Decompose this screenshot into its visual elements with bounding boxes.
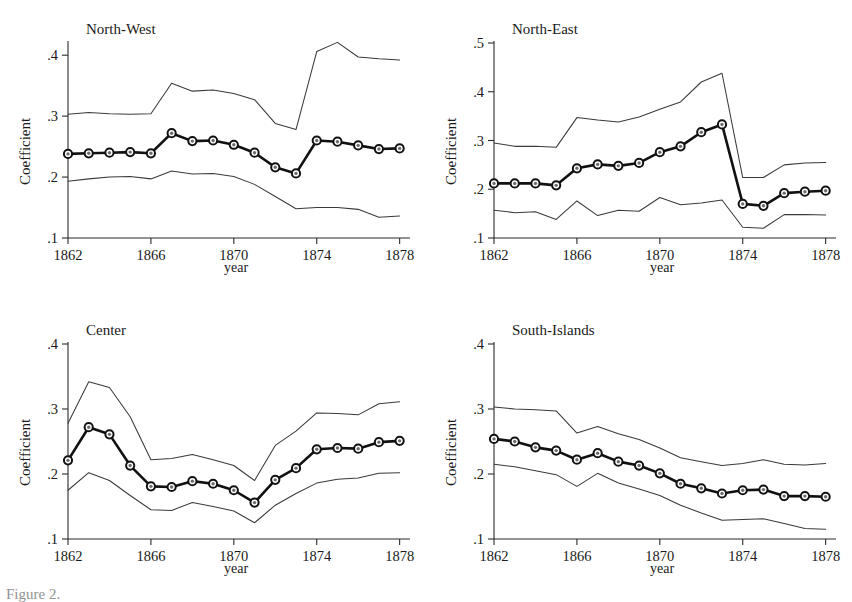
x-tick-label: 1878 xyxy=(385,247,414,263)
data-point-center xyxy=(356,447,359,450)
y-tick-label: .4 xyxy=(47,47,59,63)
data-point-center xyxy=(679,482,682,485)
y-tick-label: .4 xyxy=(473,336,485,352)
data-point-center xyxy=(741,202,744,205)
data-point-center xyxy=(274,478,277,481)
x-tick-label: 1862 xyxy=(54,548,83,564)
confidence-interval-line xyxy=(494,73,826,177)
data-point-center xyxy=(513,182,516,185)
y-axis-label: Coefficient xyxy=(17,117,33,185)
data-point-center xyxy=(66,459,69,462)
x-tick-label: 1878 xyxy=(811,247,840,263)
confidence-interval-line xyxy=(68,42,400,129)
chart-north-west: North-West Coefficient year .1.2.3.41862… xyxy=(0,0,426,301)
panel-north-east: North-East Coefficient year .1.2.3.4.518… xyxy=(426,0,852,301)
y-tick-label: .3 xyxy=(47,401,58,417)
data-point-center xyxy=(554,449,557,452)
data-point-center xyxy=(108,151,111,154)
data-point-center xyxy=(66,152,69,155)
data-point-center xyxy=(128,150,131,153)
x-tick-label: 1870 xyxy=(219,247,248,263)
data-point-center xyxy=(741,489,744,492)
coefficient-line xyxy=(494,124,826,205)
data-point-center xyxy=(658,151,661,154)
data-point-center xyxy=(658,472,661,475)
panel-title: North-East xyxy=(512,21,579,37)
x-tick-label: 1866 xyxy=(136,247,165,263)
data-point-center xyxy=(211,482,214,485)
data-point-center xyxy=(377,440,380,443)
caption-text: Figure 2. xyxy=(6,586,852,602)
data-point-center xyxy=(398,439,401,442)
data-point-center xyxy=(253,501,256,504)
data-point-center xyxy=(720,492,723,495)
y-tick-label: .3 xyxy=(473,401,484,417)
data-point-center xyxy=(108,433,111,436)
data-point-center xyxy=(782,494,785,497)
x-tick-label: 1862 xyxy=(54,247,83,263)
data-point-center xyxy=(824,495,827,498)
data-point-center xyxy=(274,166,277,169)
data-point-center xyxy=(253,151,256,154)
data-point-center xyxy=(596,452,599,455)
data-point-center xyxy=(356,144,359,147)
confidence-interval-line xyxy=(494,198,826,229)
x-tick-label: 1870 xyxy=(645,247,674,263)
y-tick-label: .2 xyxy=(473,181,484,197)
x-tick-label: 1866 xyxy=(562,548,591,564)
data-point-center xyxy=(294,466,297,469)
confidence-interval-line xyxy=(68,171,400,217)
data-point-center xyxy=(679,145,682,148)
x-tick-label: 1874 xyxy=(302,548,332,564)
y-tick-label: .1 xyxy=(47,531,58,547)
data-point-center xyxy=(315,448,318,451)
y-tick-label: .2 xyxy=(47,466,58,482)
plot-area: .1.2.3.418621866187018741878 xyxy=(473,336,840,564)
data-point-center xyxy=(617,164,620,167)
data-point-center xyxy=(87,152,90,155)
x-tick-label: 1866 xyxy=(136,548,165,564)
data-point-center xyxy=(170,131,173,134)
data-point-center xyxy=(492,437,495,440)
data-point-center xyxy=(232,143,235,146)
chart-north-east: North-East Coefficient year .1.2.3.4.518… xyxy=(426,0,852,301)
data-point-center xyxy=(191,139,194,142)
data-point-center xyxy=(617,460,620,463)
figure-panel-grid: North-West Coefficient year .1.2.3.41862… xyxy=(0,0,852,602)
data-point-center xyxy=(762,204,765,207)
figure-caption: Figure 2. xyxy=(0,586,852,602)
y-tick-label: .1 xyxy=(47,230,58,246)
panel-north-west: North-West Coefficient year .1.2.3.41862… xyxy=(0,0,426,301)
y-tick-label: .1 xyxy=(473,230,484,246)
data-point-center xyxy=(596,163,599,166)
x-tick-label: 1870 xyxy=(645,548,674,564)
plot-area: .1.2.3.4.518621866187018741878 xyxy=(473,35,840,263)
data-point-center xyxy=(87,426,90,429)
y-tick-label: .4 xyxy=(47,336,59,352)
data-point-center xyxy=(170,485,173,488)
data-point-center xyxy=(398,147,401,150)
x-tick-label: 1862 xyxy=(480,247,509,263)
data-point-center xyxy=(700,131,703,134)
y-tick-label: .1 xyxy=(473,531,484,547)
data-point-center xyxy=(211,139,214,142)
data-point-center xyxy=(294,172,297,175)
plot-area: .1.2.3.418621866187018741878 xyxy=(47,336,414,564)
chart-center: Center Coefficient year .1.2.3.418621866… xyxy=(0,301,426,602)
y-axis-label: Coefficient xyxy=(17,418,33,486)
data-point-center xyxy=(534,446,537,449)
panel-title: North-West xyxy=(86,21,156,37)
y-tick-label: .2 xyxy=(473,466,484,482)
x-tick-label: 1870 xyxy=(219,548,248,564)
confidence-interval-line xyxy=(68,473,400,523)
coefficient-line xyxy=(68,133,400,173)
data-point-center xyxy=(575,167,578,170)
data-point-center xyxy=(534,182,537,185)
data-point-center xyxy=(336,446,339,449)
x-tick-label: 1874 xyxy=(728,247,758,263)
data-point-center xyxy=(232,489,235,492)
data-point-center xyxy=(637,464,640,467)
chart-south-islands: South-Islands Coefficient year .1.2.3.41… xyxy=(426,301,852,602)
data-point-center xyxy=(720,123,723,126)
panel-center: Center Coefficient year .1.2.3.418621866… xyxy=(0,301,426,602)
